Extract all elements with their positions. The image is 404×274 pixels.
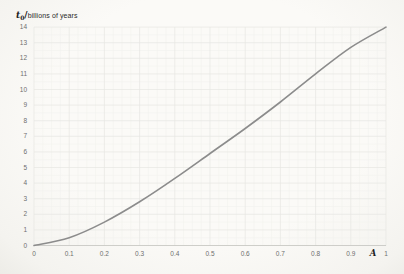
- chart-title: t0/billions of years: [16, 7, 78, 23]
- plot-area: [0, 0, 404, 274]
- x-tick-label: 0.1: [58, 250, 80, 258]
- y-tick-label: 7: [4, 132, 27, 140]
- x-tick-label: 0.6: [234, 250, 256, 258]
- y-tick-label: 0: [4, 242, 27, 250]
- chart-title-unit: billions of years: [28, 12, 78, 19]
- y-tick-label: 11: [4, 70, 27, 78]
- y-tick-label: 4: [4, 179, 27, 187]
- x-tick-label: 0: [23, 250, 45, 258]
- y-tick-label: 13: [4, 39, 27, 47]
- x-tick-label: 0.9: [340, 250, 362, 258]
- chart-container: t0/billions of years 0123456789101112131…: [0, 0, 404, 274]
- y-tick-label: 14: [4, 23, 27, 31]
- y-tick-label: 12: [4, 54, 27, 62]
- y-tick-label: 9: [4, 101, 27, 109]
- x-axis-label: A: [366, 248, 380, 258]
- y-tick-label: 3: [4, 195, 27, 203]
- x-tick-label: 0.2: [93, 250, 115, 258]
- x-tick-label: 0.7: [269, 250, 291, 258]
- x-tick-label: 0.4: [164, 250, 186, 258]
- x-tick-label: 0.3: [129, 250, 151, 258]
- y-tick-label: 5: [4, 164, 27, 172]
- y-tick-label: 8: [4, 117, 27, 125]
- y-tick-label: 10: [4, 86, 27, 94]
- y-tick-label: 1: [4, 226, 27, 234]
- y-tick-label: 2: [4, 210, 27, 218]
- y-tick-label: 6: [4, 148, 27, 156]
- x-tick-label: 0.5: [199, 250, 221, 258]
- x-tick-label: 0.8: [305, 250, 327, 258]
